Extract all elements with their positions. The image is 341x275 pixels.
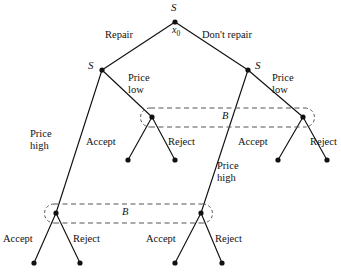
action-label-reject-1: Reject — [168, 137, 195, 148]
terminal-node-4 — [324, 157, 329, 162]
action-label-price-low-right: Price low — [272, 72, 294, 96]
node-label-root-x0: x0 — [172, 25, 180, 38]
action-label-repair: Repair — [105, 30, 133, 41]
node-right-seller — [245, 67, 250, 72]
action-label-price-high-left: Price high — [30, 128, 52, 152]
action-label-price-high-right: Price high — [217, 160, 239, 184]
action-label-dont-repair: Don't repair — [202, 30, 252, 41]
node-buyer-lower-left — [53, 210, 58, 215]
decision-node-group — [53, 19, 305, 215]
terminal-node-6 — [77, 260, 82, 265]
action-label-price-low-left: Price low — [128, 72, 150, 96]
node-buyer-lower-right — [198, 210, 203, 215]
edge-buyer-upper-right-accept — [278, 117, 303, 160]
terminal-node-3 — [275, 157, 280, 162]
terminal-node-5 — [31, 260, 36, 265]
node-buyer-upper-left — [149, 114, 154, 119]
action-label-accept-1: Accept — [86, 137, 116, 148]
action-label-reject-3: Reject — [73, 234, 100, 245]
node-label-left-seller: S — [88, 60, 94, 71]
game-tree-figure: S x0 S S Repair Don't repair Price low P… — [0, 0, 341, 275]
action-label-reject-4: Reject — [215, 234, 242, 245]
action-label-accept-3: Accept — [3, 234, 33, 245]
edge-buyer-lower-left-accept — [34, 213, 56, 263]
node-left-seller — [99, 67, 104, 72]
terminal-node-1 — [125, 157, 130, 162]
edge-buyer-upper-left-accept — [128, 117, 152, 160]
terminal-node-7 — [172, 260, 177, 265]
node-label-root: S — [171, 2, 177, 13]
node-buyer-upper-right — [300, 114, 305, 119]
action-label-accept-2: Accept — [238, 137, 268, 148]
information-set-label-upper: B — [222, 111, 228, 122]
terminal-node-2 — [172, 157, 177, 162]
edge-buyer-lower-right-accept — [175, 213, 201, 263]
action-label-reject-2: Reject — [310, 137, 337, 148]
node-label-right-seller: S — [255, 60, 261, 71]
terminal-node-group — [31, 157, 329, 265]
x0-subscript: 0 — [176, 29, 180, 38]
action-label-accept-4: Accept — [146, 234, 176, 245]
terminal-node-8 — [219, 260, 224, 265]
information-set-lower — [45, 204, 213, 223]
information-set-label-lower: B — [122, 207, 128, 218]
